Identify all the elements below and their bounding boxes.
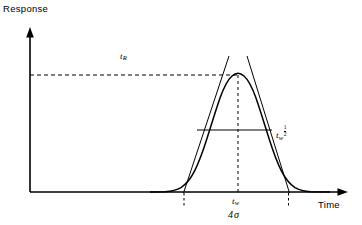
half-width-fraction-denominator: 2 bbox=[284, 132, 287, 138]
peak-width-subscript: w bbox=[235, 199, 239, 206]
four-sigma-label: 4σ bbox=[228, 210, 239, 220]
four-sigma-number: 4 bbox=[228, 209, 233, 220]
retention-time-label: tR bbox=[120, 52, 127, 62]
chromatogram-figure: Response Time tR tw12 tw 4σ bbox=[0, 0, 362, 225]
x-axis-arrowhead bbox=[338, 188, 349, 196]
y-axis-label: Response bbox=[3, 4, 48, 14]
gaussian-peak-curve bbox=[150, 73, 330, 192]
chromatogram-svg bbox=[0, 0, 362, 225]
half-width-subscript: w bbox=[279, 134, 283, 141]
y-axis-arrowhead bbox=[26, 27, 34, 38]
left-tangent-line bbox=[184, 56, 230, 193]
sigma-symbol: σ bbox=[234, 209, 239, 220]
half-width-fraction: 12 bbox=[284, 125, 287, 137]
half-width-fraction-numerator: 1 bbox=[284, 125, 287, 131]
x-axis-label: Time bbox=[318, 200, 340, 210]
half-height-width-label: tw12 bbox=[276, 125, 286, 141]
peak-width-label: tw bbox=[232, 197, 239, 207]
retention-time-subscript: R bbox=[123, 54, 127, 61]
